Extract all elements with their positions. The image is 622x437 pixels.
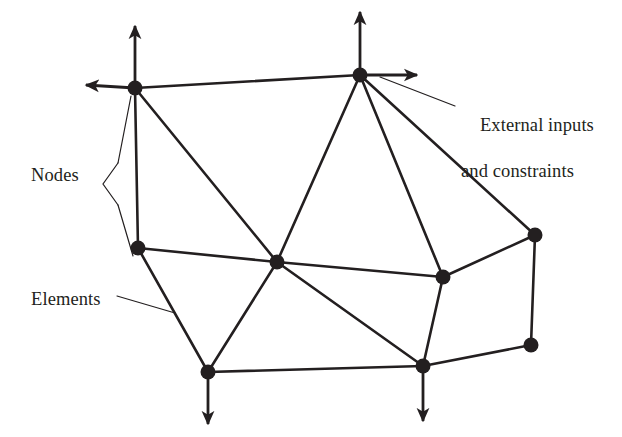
node-top-left xyxy=(128,81,143,96)
label-external-line-1: External inputs xyxy=(480,115,594,135)
mesh-edge xyxy=(208,262,277,372)
label-nodes: Nodes xyxy=(31,164,79,187)
label-external-inputs-and-constraints: External inputs and constraints xyxy=(461,91,594,229)
mesh-edge xyxy=(277,262,443,277)
mesh-edge xyxy=(360,75,443,277)
node-bottom-right xyxy=(416,359,431,374)
leader-line-nodes-brace xyxy=(103,163,118,205)
node-right-middle xyxy=(436,270,451,285)
label-external-line-2: and constraints xyxy=(461,160,594,183)
node-left-middle xyxy=(131,241,146,256)
mesh-edge xyxy=(138,248,277,262)
node-bottom-left xyxy=(201,365,216,380)
node-right-upper xyxy=(528,228,543,243)
node-right-lower xyxy=(524,338,539,353)
mesh-edge xyxy=(135,88,277,262)
mesh-edge xyxy=(423,277,443,366)
mesh-edge xyxy=(443,235,535,277)
mesh-edge xyxy=(135,75,360,88)
mesh-edge xyxy=(208,366,423,372)
mesh-edge xyxy=(277,75,360,262)
figure-canvas: Nodes Elements External inputs and const… xyxy=(0,0,622,437)
mesh-edge xyxy=(423,345,531,366)
mesh-edge xyxy=(135,88,138,248)
node-top-middle xyxy=(353,68,368,83)
label-elements: Elements xyxy=(31,288,101,311)
leader-line-nodes-upper xyxy=(118,96,131,163)
leader-line-external xyxy=(380,77,455,106)
mesh-edge xyxy=(531,235,535,345)
mesh-edge xyxy=(138,248,208,372)
mesh-edge xyxy=(277,262,423,366)
node-center xyxy=(270,255,285,270)
